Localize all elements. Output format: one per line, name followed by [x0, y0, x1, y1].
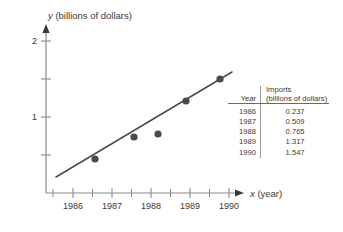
table-row: 1990 1.547 — [228, 148, 329, 158]
cell-year: 1987 — [228, 117, 261, 127]
y-tick-label-1: 1 — [32, 112, 37, 122]
cell-year: 1986 — [228, 107, 261, 117]
y-tick-label-2: 2 — [32, 36, 37, 46]
chart-page: 2 1 1986 1987 1988 1989 1990 y (billions… — [0, 0, 343, 232]
data-point-1987 — [130, 133, 137, 140]
table-body: 1986 0.237 1987 0.509 1988 0.765 1989 1.… — [228, 104, 329, 158]
x-axis-title-rest: (year) — [255, 188, 282, 199]
cell-year: 1990 — [228, 148, 261, 158]
cell-value: 0.765 — [261, 127, 330, 137]
cell-value: 1.547 — [261, 148, 330, 158]
header-imports-line2: (billions of dollars) — [261, 95, 330, 104]
x-axis-title: x (year) — [249, 188, 282, 199]
cell-year: 1989 — [228, 137, 261, 147]
header-year: Year — [228, 95, 261, 104]
table-head: Imports Year (billions of dollars) — [228, 86, 329, 104]
x-tick-label-1986: 1986 — [63, 201, 83, 211]
data-point-1986 — [91, 155, 98, 162]
table-row: 1989 1.317 — [228, 137, 329, 147]
x-axis-arrowhead — [235, 189, 244, 196]
table-row: 1988 0.765 — [228, 127, 329, 137]
cell-value: 0.509 — [261, 117, 330, 127]
trend-line — [56, 72, 232, 177]
data-point-1988 — [154, 130, 161, 137]
table-row: 1987 0.509 — [228, 117, 329, 127]
imports-data-table: Imports Year (billions of dollars) 1986 … — [228, 86, 340, 158]
data-point-1989 — [182, 97, 189, 104]
x-tick-label-1989: 1989 — [180, 201, 200, 211]
x-tick-label-1987: 1987 — [102, 201, 122, 211]
table: Imports Year (billions of dollars) 1986 … — [228, 86, 329, 158]
table-header-bottom-row: Year (billions of dollars) — [228, 95, 329, 104]
y-axis-arrowhead — [42, 24, 49, 33]
cell-value: 0.237 — [261, 107, 330, 117]
table-row: 1986 0.237 — [228, 107, 329, 117]
x-tick-label-1988: 1988 — [141, 201, 161, 211]
cell-value: 1.317 — [261, 137, 330, 147]
cell-year: 1988 — [228, 127, 261, 137]
y-axis-title-rest: (billions of dollars) — [53, 10, 132, 21]
x-tick-label-1990: 1990 — [219, 201, 239, 211]
y-axis-title: y (billions of dollars) — [47, 10, 132, 21]
data-point-1990 — [216, 75, 223, 82]
